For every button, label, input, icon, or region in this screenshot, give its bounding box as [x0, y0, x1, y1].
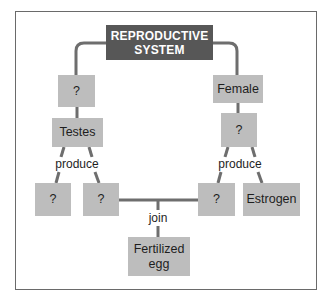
node-ovary-product-1: ?: [198, 183, 235, 216]
node-label-line-2: egg: [149, 257, 170, 272]
node-ovaries-unknown: ?: [221, 113, 257, 147]
node-label-line-1: Fertilized: [134, 242, 185, 257]
node-label: ?: [213, 192, 220, 207]
node-testes-product-1: ?: [35, 183, 71, 216]
connector-title-to-female: [213, 43, 237, 75]
label-produce-left: produce: [54, 158, 99, 171]
label-join: join: [148, 212, 169, 225]
node-estrogen: Estrogen: [243, 183, 300, 216]
node-label: Testes: [59, 125, 95, 140]
node-testes: Testes: [52, 118, 103, 147]
node-female: Female: [213, 75, 263, 103]
node-label: ?: [73, 84, 80, 99]
node-label: Estrogen: [246, 192, 296, 207]
node-male-unknown: ?: [58, 75, 95, 107]
label-produce-right: produce: [217, 158, 262, 171]
node-testes-product-2: ?: [83, 183, 119, 216]
connector-title-to-male: [76, 43, 106, 75]
title-reproductive-system: REPRODUCTIVE SYSTEM: [106, 25, 213, 60]
title-line-1: REPRODUCTIVE: [111, 29, 209, 43]
node-label: ?: [50, 192, 57, 207]
title-line-2: SYSTEM: [134, 43, 185, 57]
node-label: Female: [217, 82, 259, 97]
node-label: ?: [98, 192, 105, 207]
node-fertilized-egg: Fertilized egg: [128, 237, 190, 276]
node-label: ?: [236, 123, 243, 138]
